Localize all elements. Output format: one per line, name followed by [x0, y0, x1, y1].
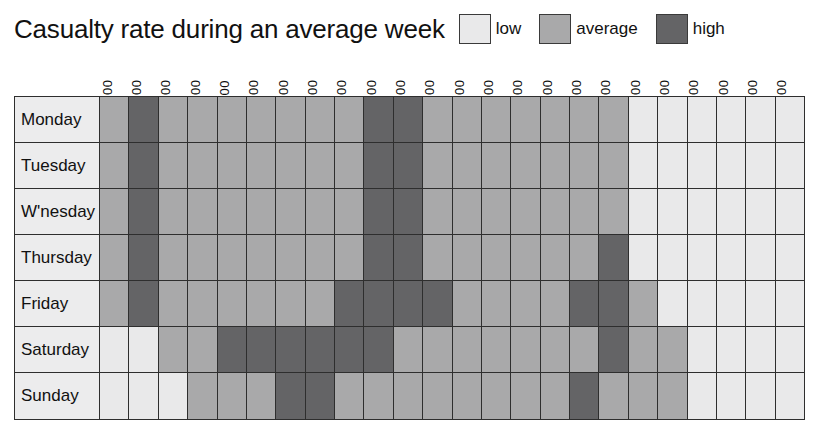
heatmap-cell: [188, 143, 217, 188]
heatmap-cell: [511, 97, 540, 142]
heatmap-cell: [129, 327, 158, 372]
time-tick-1100: 1100: [217, 52, 246, 96]
heatmap-cell: [423, 189, 452, 234]
heatmap-cell: [394, 189, 423, 234]
heatmap-cell: [423, 235, 452, 280]
heatmap-cell: [776, 235, 804, 280]
heatmap-cell: [276, 97, 305, 142]
heatmap-cell: [570, 97, 599, 142]
heatmap-cell: [746, 143, 775, 188]
heatmap-cell: [129, 189, 158, 234]
table-row: Monday: [15, 97, 804, 143]
day-label-sunday: Sunday: [15, 373, 100, 419]
heatmap-cell: [159, 327, 188, 372]
time-tick-2000: 2000: [481, 52, 510, 96]
heatmap-cell: [746, 373, 775, 419]
heatmap-cell: [276, 235, 305, 280]
heatmap-cell: [218, 281, 247, 326]
heatmap-cell: [688, 281, 717, 326]
heatmap-cell: [453, 189, 482, 234]
heatmap-cell: [482, 235, 511, 280]
time-tick-2400: 2400: [599, 52, 628, 96]
heatmap-cell: [570, 235, 599, 280]
time-tick-1300: 1300: [276, 52, 305, 96]
heatmap-cell: [394, 235, 423, 280]
heatmap-cell: [688, 189, 717, 234]
time-tick-1400: 1400: [305, 52, 334, 96]
heatmap-cell: [629, 143, 658, 188]
heatmap-cell: [335, 281, 364, 326]
heatmap-cell: [599, 327, 628, 372]
heatmap-cell: [629, 281, 658, 326]
heatmap-cell: [306, 235, 335, 280]
heatmap-cell: [247, 97, 276, 142]
heatmap-cell: [717, 373, 746, 419]
time-tick-0100: 0100: [628, 52, 657, 96]
heatmap-cell: [511, 373, 540, 419]
time-tick-2300: 2300: [569, 52, 598, 96]
heatmap-cell: [746, 97, 775, 142]
heatmap-cell: [335, 327, 364, 372]
time-tick-2200: 2200: [540, 52, 569, 96]
heatmap-cell: [159, 97, 188, 142]
heatmap-cell: [511, 235, 540, 280]
heatmap-cell: [776, 327, 804, 372]
heatmap-cell: [746, 189, 775, 234]
heatmap-cell: [453, 97, 482, 142]
heatmap-cell: [188, 97, 217, 142]
time-tick-0900: 0900: [159, 52, 188, 96]
heatmap-cell: [218, 327, 247, 372]
time-tick-0300: 0300: [687, 52, 716, 96]
row-cells: [100, 189, 804, 234]
chart-header: Casualty rate during an average week low…: [14, 8, 809, 50]
heatmap-cell: [364, 327, 393, 372]
heatmap-cell: [570, 281, 599, 326]
heatmap-cell: [453, 235, 482, 280]
heatmap-cell: [129, 143, 158, 188]
heatmap-cell: [218, 235, 247, 280]
heatmap-cell: [306, 143, 335, 188]
legend: lowaveragehigh: [459, 14, 725, 44]
heatmap-cell: [218, 189, 247, 234]
heatmap-cell: [453, 143, 482, 188]
heatmap-cell: [629, 235, 658, 280]
day-label-friday: Friday: [15, 281, 100, 326]
heatmap-cell: [482, 97, 511, 142]
row-cells: [100, 235, 804, 280]
heatmap-cell: [541, 143, 570, 188]
table-row: Saturday: [15, 327, 804, 373]
row-cells: [100, 143, 804, 188]
time-tick-1800: 1800: [423, 52, 452, 96]
heatmap-cell: [482, 281, 511, 326]
heatmap-cell: [541, 235, 570, 280]
heatmap-cell: [100, 97, 129, 142]
heatmap-cell: [188, 189, 217, 234]
heatmap-cell: [541, 327, 570, 372]
heatmap-cell: [159, 373, 188, 419]
heatmap-cell: [276, 143, 305, 188]
heatmap-cell: [306, 327, 335, 372]
heatmap-cell: [423, 327, 452, 372]
heatmap-cell: [776, 281, 804, 326]
heatmap-cell: [599, 373, 628, 419]
time-tick-1700: 1700: [393, 52, 422, 96]
heatmap-cell: [394, 97, 423, 142]
heatmap-cell: [717, 281, 746, 326]
time-tick-0600: 0600: [775, 52, 804, 96]
heatmap-cell: [746, 235, 775, 280]
day-label-tuesday: Tuesday: [15, 143, 100, 188]
heatmap-cell: [776, 189, 804, 234]
heatmap-cell: [218, 373, 247, 419]
heatmap-cell: [658, 143, 687, 188]
day-label-wnesday: W'nesday: [15, 189, 100, 234]
heatmap-cell: [688, 143, 717, 188]
heatmap-cell: [129, 235, 158, 280]
heatmap-cell: [658, 189, 687, 234]
heatmap-cell: [100, 143, 129, 188]
heatmap-cell: [570, 189, 599, 234]
time-tick-0700: 0700: [100, 52, 129, 96]
table-row: W'nesday: [15, 189, 804, 235]
heatmap-cell: [100, 235, 129, 280]
heatmap-cell: [658, 235, 687, 280]
heatmap-cell: [746, 327, 775, 372]
